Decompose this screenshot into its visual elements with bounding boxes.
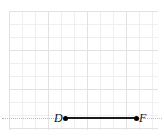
point-label-d: D (54, 112, 63, 124)
point-label-f: F (139, 112, 146, 124)
grid-major-lines (9, 11, 158, 130)
endpoint-dot-d (63, 116, 68, 121)
line-segment-df (65, 117, 136, 119)
geometry-figure: D F (0, 0, 164, 137)
